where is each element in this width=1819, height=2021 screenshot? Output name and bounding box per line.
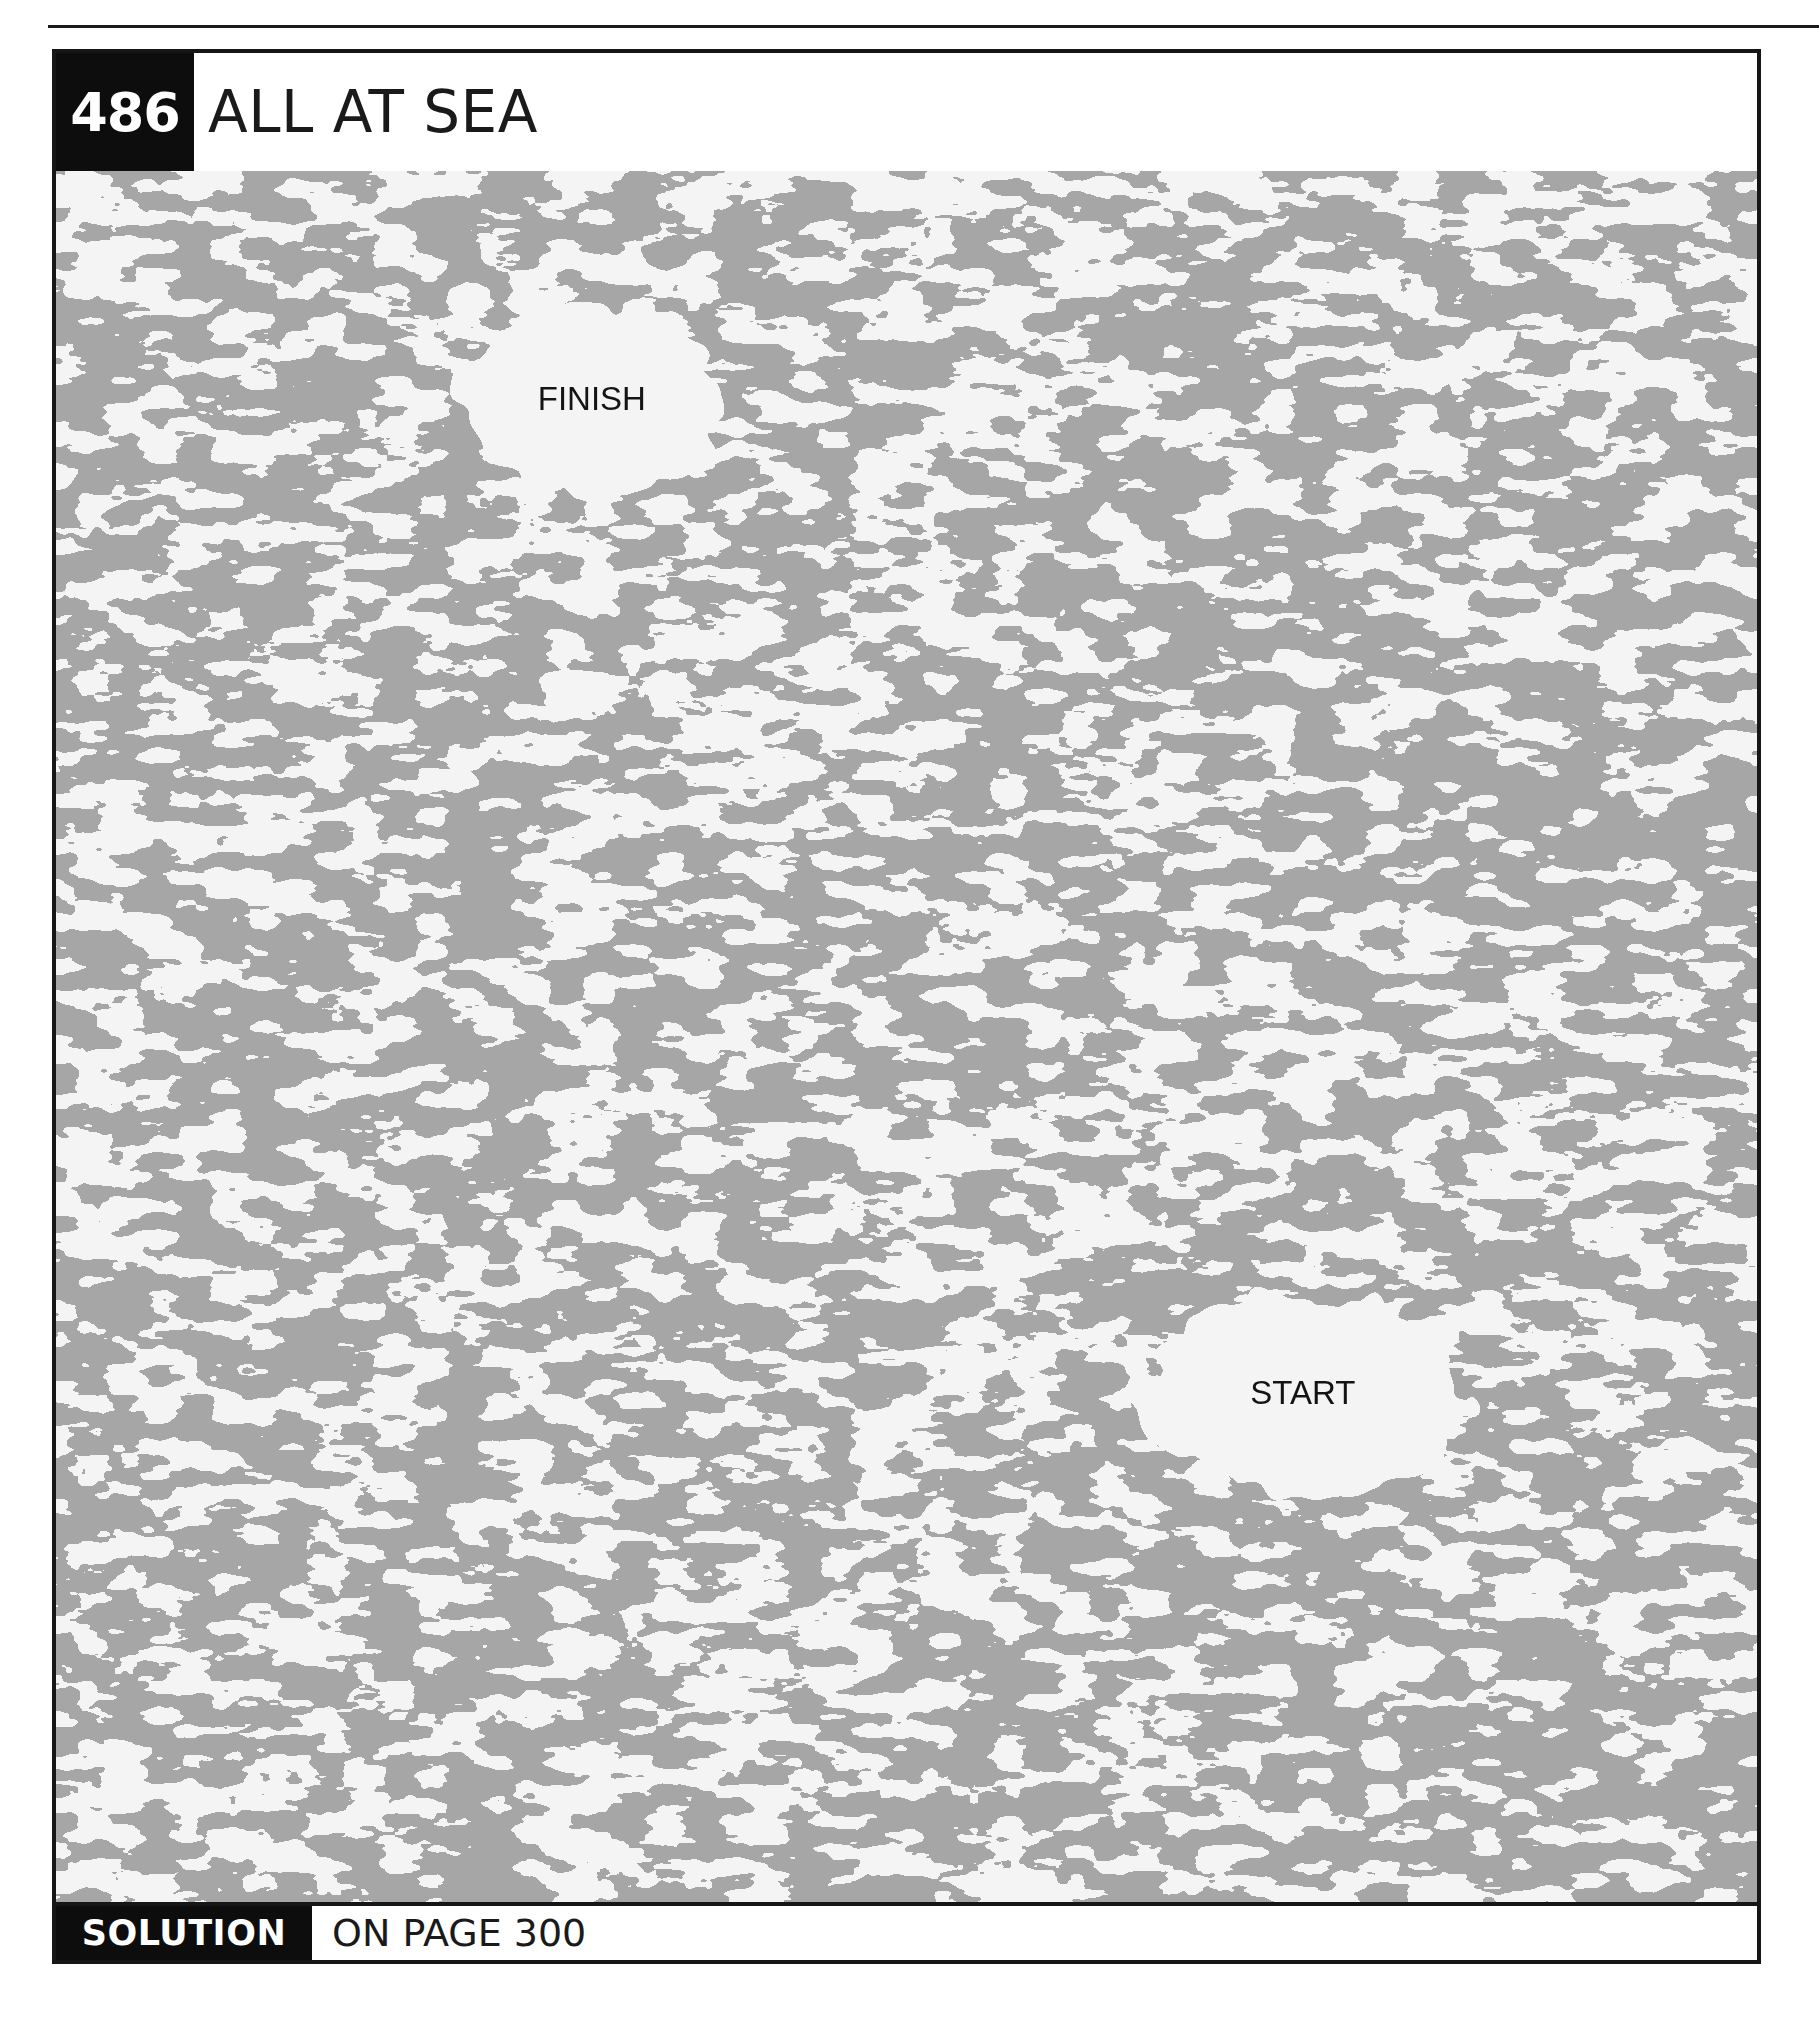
maze-canvas[interactable] (56, 171, 1757, 1902)
puzzle-header: 486 ALL AT SEA (56, 53, 1757, 175)
finish-label: FINISH (538, 380, 646, 418)
solution-footer: SOLUTION ON PAGE 300 (56, 1902, 1757, 1960)
puzzle-number: 486 (56, 53, 194, 171)
puzzle-frame: 486 ALL AT SEA FINISH START SOLUTION ON … (52, 49, 1761, 1964)
maze-area[interactable]: FINISH START (56, 171, 1757, 1902)
start-label: START (1250, 1374, 1355, 1412)
solution-label: SOLUTION (56, 1906, 312, 1960)
puzzle-title: ALL AT SEA (194, 53, 1757, 171)
solution-page-reference: ON PAGE 300 (312, 1906, 1757, 1960)
page-top-rule (48, 25, 1819, 28)
